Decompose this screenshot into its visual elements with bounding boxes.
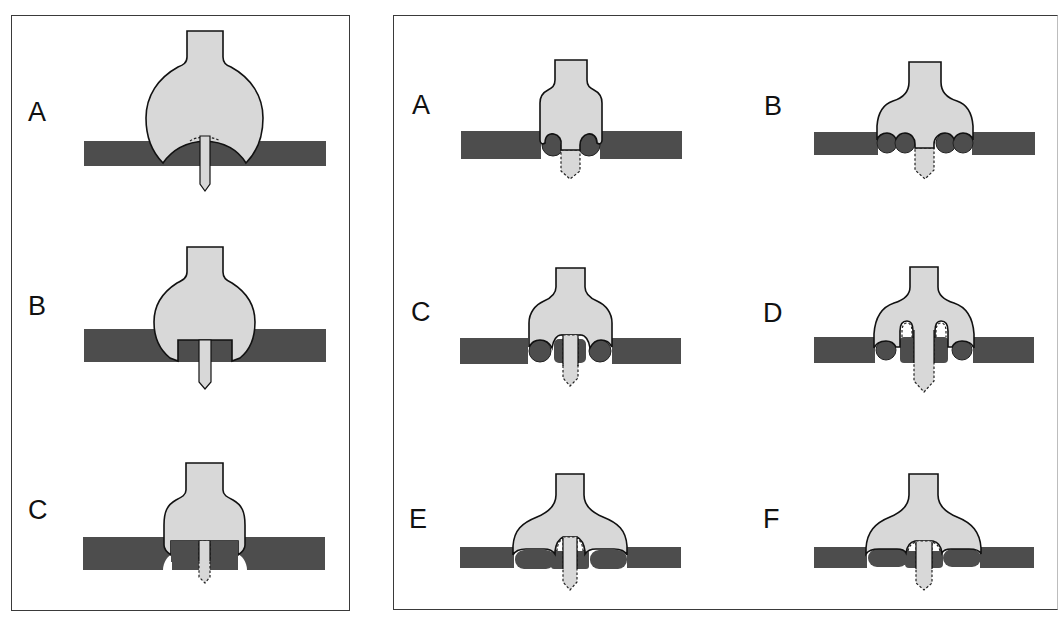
- right-label-a: A: [412, 92, 430, 119]
- right-label-f: F: [763, 506, 780, 533]
- right-label-b: B: [764, 93, 782, 120]
- right-label-d: D: [763, 300, 783, 327]
- left-diagram-b: [84, 247, 326, 389]
- left-diagram-a: [84, 31, 326, 191]
- right-panel: [393, 15, 1058, 610]
- left-diagram-c: [83, 463, 325, 583]
- right-label-e: E: [409, 506, 427, 533]
- right-label-c: C: [411, 299, 431, 326]
